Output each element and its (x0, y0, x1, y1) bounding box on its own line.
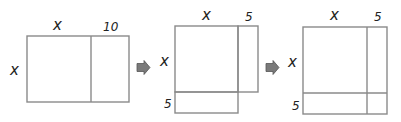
panel-3-left-x-label: x (287, 53, 297, 71)
panel-2-top-5-label: 5 (245, 10, 253, 24)
panel-1-left-x-label: x (9, 61, 19, 79)
panel-1-top-10-label: 10 (103, 20, 119, 34)
panel-3: x 5 x 5 (287, 6, 387, 114)
panel-2: x 5 x 5 (159, 6, 258, 113)
panel-1: x 10 x (9, 16, 129, 102)
right-arrow-icon (137, 61, 150, 75)
panel-2-bottom-5-label: 5 (164, 97, 172, 111)
panel-1-outer-rect (27, 36, 129, 102)
panel-3-bottom-5-label: 5 (292, 99, 300, 113)
panel-2-bottom-strip (175, 92, 238, 113)
panel-2-square (175, 26, 238, 92)
panel-2-right-strip (238, 26, 258, 92)
panel-3-top-x-label: x (329, 6, 339, 24)
panel-3-outer-square (303, 27, 387, 114)
completing-the-square-diagram: x 10 x x 5 x 5 x 5 x (0, 0, 401, 122)
panel-1-top-x-label: x (52, 16, 62, 34)
right-arrow-icon (266, 61, 279, 75)
panel-2-top-x-label: x (201, 6, 211, 24)
panel-2-left-x-label: x (159, 52, 169, 70)
panel-3-top-5-label: 5 (374, 10, 382, 24)
